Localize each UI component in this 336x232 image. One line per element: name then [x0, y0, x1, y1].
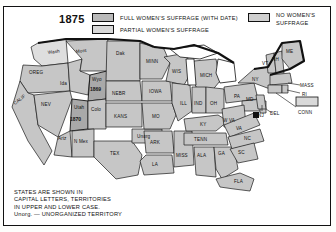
- map-label-utah: Utah: [74, 105, 85, 110]
- map-label-colo: Colo: [91, 107, 101, 112]
- state-shape-newjersey: [256, 95, 266, 109]
- state-shape-utah: [70, 99, 88, 131]
- map-label-oreg: OREG: [29, 70, 43, 75]
- map-label-la: LA: [152, 162, 159, 167]
- map-label-ky: KY: [200, 122, 206, 127]
- map-label-sc: SC: [238, 150, 245, 155]
- state-shape-indiana: [192, 87, 206, 113]
- leader-line-connecticut: [276, 93, 296, 107]
- map-label-oh: OH: [210, 101, 217, 106]
- leader-line-rhodeisland: [287, 90, 300, 93]
- map-label-ariz: Ariz: [58, 136, 67, 141]
- leader-line-massachusetts: [288, 83, 300, 85]
- note-line-4: Unorg. — UNORGANIZED TERRITORY: [14, 211, 122, 219]
- map-label-tenn: TENN: [194, 137, 207, 142]
- legend-swatch-full-suffrage: [92, 13, 114, 22]
- map-label-wva: W VA: [223, 118, 236, 123]
- leader-box-connecticut: [296, 97, 318, 106]
- map-label-nc: NC: [244, 136, 251, 141]
- map-label-nev: NEV: [41, 102, 52, 107]
- map-label-ida: Ida: [60, 81, 67, 86]
- map-note: STATES ARE SHOWN IN CAPITAL LETTERS, TER…: [14, 189, 122, 219]
- note-line-3: IN UPPER AND LOWER CASE.: [14, 204, 122, 212]
- map-label-nh: NH: [272, 57, 279, 62]
- map-label-ala: ALA: [197, 153, 207, 158]
- suffrage-date-wyoming: 1869: [90, 86, 101, 92]
- map-label-vt: VT: [262, 61, 268, 66]
- legend-label-no-suffrage-line1: NO WOMEN'S: [276, 12, 315, 18]
- note-line-1: STATES ARE SHOWN IN: [14, 189, 122, 197]
- state-shape-dakota: [106, 41, 140, 81]
- map-label-dak: Dak: [116, 51, 125, 56]
- suffrage-date-utah: 1870: [70, 116, 81, 122]
- map-label-mass: MASS: [300, 83, 314, 88]
- map-label-mo: MO: [152, 114, 160, 119]
- state-shape-rhodeisland: [282, 85, 288, 93]
- map-label-wyo: Wyo: [92, 77, 102, 82]
- map-label-unorg: Unorg: [137, 134, 151, 139]
- map-label-del: DEL: [270, 111, 280, 116]
- map-label-miss: MISS: [176, 153, 188, 158]
- map-label-nmex: N Mex: [74, 139, 89, 144]
- state-shape-texas: [94, 141, 142, 179]
- map-label-mich: MICH: [200, 73, 212, 78]
- map-label-va: VA: [236, 126, 243, 131]
- map-label-minn: MINN: [146, 59, 158, 64]
- map-label-fla: FLA: [234, 179, 244, 184]
- map-label-ga: GA: [218, 151, 226, 156]
- map-label-wis: WIS: [172, 69, 181, 74]
- map-label-ri: RI: [302, 92, 307, 97]
- legend-label-full-suffrage: FULL WOMEN'S SUFFRAGE (WITH DATE): [120, 15, 238, 21]
- state-shape-colorado: [88, 99, 106, 129]
- state-shape-alabama: [194, 147, 216, 177]
- map-label-kans: KANS: [114, 114, 127, 119]
- map-label-nj: NJ: [258, 113, 264, 118]
- state-shape-ohio: [206, 87, 224, 113]
- suffrage-map-page: 1875 FULL WOMEN'S SUFFRAGE (WITH DATE) P…: [0, 0, 336, 232]
- map-label-ind: IND: [194, 101, 203, 106]
- map-label-tex: TEX: [110, 151, 119, 156]
- map-label-conn: CONN: [298, 110, 312, 115]
- map-label-pa: PA: [234, 94, 241, 99]
- map-label-me: ME: [286, 49, 293, 54]
- map-frame: 1875 FULL WOMEN'S SUFFRAGE (WITH DATE) P…: [3, 6, 331, 226]
- map-label-nebr: NEBR: [112, 91, 126, 96]
- legend-label-no-suffrage-line2: SUFFRAGE: [276, 20, 308, 26]
- map-label-iowa: IOWA: [149, 89, 162, 94]
- map-label-md: MD: [246, 97, 254, 102]
- legend-swatch-no-suffrage: [248, 13, 270, 22]
- map-label-ill: ILL: [180, 101, 187, 106]
- note-line-2: CAPITAL LETTERS, TERRITORIES: [14, 196, 122, 204]
- us-map: Wash OREG CALIF NEV Ida Mont Wyo Utah Co…: [4, 33, 332, 193]
- state-shape-connecticut: [268, 85, 282, 93]
- us-map-svg: Wash OREG CALIF NEV Ida Mont Wyo Utah Co…: [4, 33, 332, 193]
- legend-year: 1875: [59, 13, 85, 25]
- lake-michigan: [186, 59, 196, 85]
- map-label-ny: NY: [252, 77, 259, 82]
- map-label-ark: ARK: [150, 140, 161, 145]
- state-shape-oregon: [20, 63, 70, 93]
